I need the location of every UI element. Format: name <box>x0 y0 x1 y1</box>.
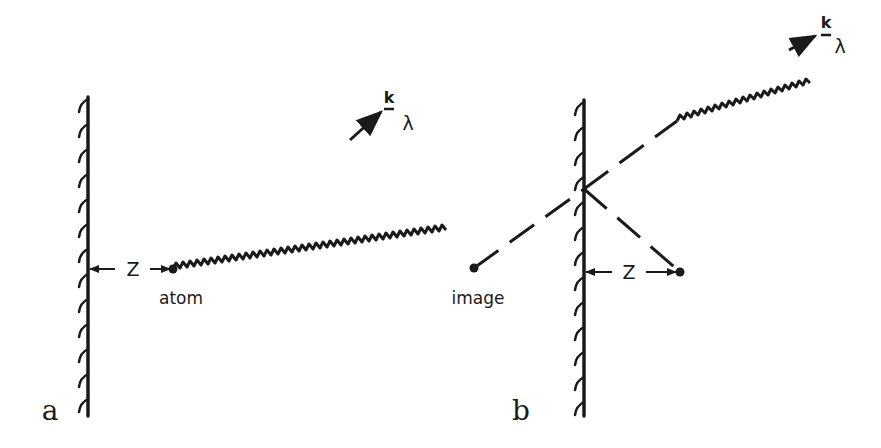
polarization-label: λ <box>402 112 413 134</box>
mirror-wall <box>575 100 584 416</box>
wavevector-label-group: k λ <box>384 88 414 134</box>
image-atom-dot <box>470 264 479 273</box>
image-label: image <box>452 288 505 308</box>
panel-b: image Z k λ b <box>452 13 846 427</box>
panel-a: Z atom k λ a <box>42 88 446 427</box>
distance-label: Z <box>126 258 139 280</box>
mirror-wall <box>79 97 88 416</box>
panel-label-a: a <box>42 394 59 427</box>
emitted-photon-wavy-arrow <box>677 36 815 121</box>
panel-label-b: b <box>512 394 530 427</box>
distance-label: Z <box>622 261 635 283</box>
atom-dot <box>676 268 685 277</box>
dashed-reflected-path <box>474 121 679 271</box>
polarization-label: λ <box>834 35 845 57</box>
emitted-photon-wavy-arrow <box>173 112 446 269</box>
atom-label: atom <box>159 288 203 308</box>
atom-mirror-diagram: Z atom k λ a <box>0 0 881 448</box>
wavevector-label-group: k λ <box>821 13 846 57</box>
wavevector-label: k <box>384 88 395 107</box>
wavevector-label: k <box>821 13 832 32</box>
